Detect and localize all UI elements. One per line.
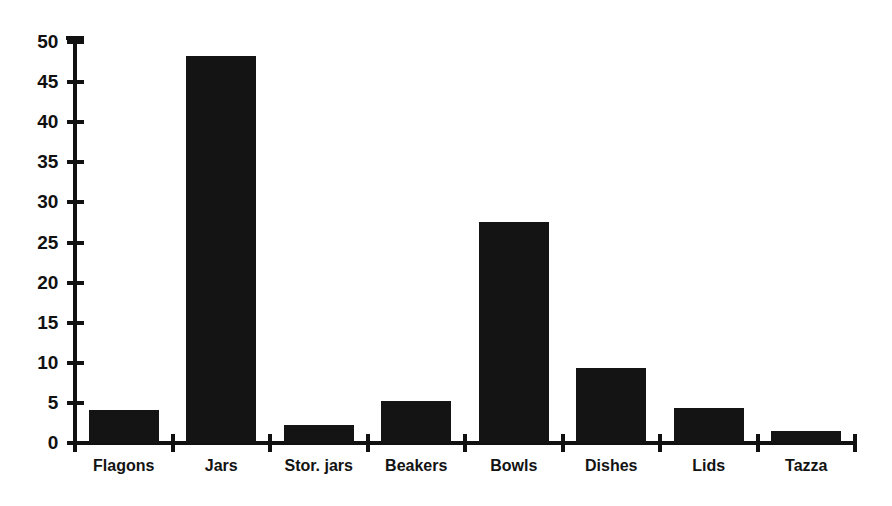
y-tick-label-15: 15 — [16, 313, 58, 332]
x-axis-label-bowls: Bowls — [465, 457, 563, 475]
bar-tazza — [771, 431, 841, 443]
bar-jars — [186, 56, 256, 443]
y-tick-label-40: 40 — [16, 112, 58, 131]
x-axis-label-dishes: Dishes — [563, 457, 661, 475]
y-tick-label-25: 25 — [16, 233, 58, 252]
y-tick-label-35: 35 — [16, 152, 58, 171]
y-tick-label-50: 50 — [16, 32, 58, 51]
bar-dishes — [576, 368, 646, 443]
plot-area — [75, 42, 855, 443]
y-tick-label-10: 10 — [16, 353, 58, 372]
bar-beakers — [381, 401, 451, 443]
bar-lids — [674, 408, 744, 443]
bar-flagons — [89, 410, 159, 443]
bar-bowls — [479, 222, 549, 443]
x-axis-label-beakers: Beakers — [368, 457, 466, 475]
y-tick-label-30: 30 — [16, 192, 58, 211]
y-tick-label-45: 45 — [16, 72, 58, 91]
x-axis-label-jars: Jars — [173, 457, 271, 475]
bar-stor-jars — [284, 425, 354, 443]
y-tick-label-20: 20 — [16, 273, 58, 292]
x-axis-label-flagons: Flagons — [75, 457, 173, 475]
bar-chart: 50454035302520151050 FlagonsJarsStor. ja… — [0, 0, 892, 506]
x-axis-label-lids: Lids — [660, 457, 758, 475]
y-tick-label-0: 0 — [16, 433, 58, 452]
y-tick-label-5: 5 — [16, 393, 58, 412]
x-axis-label-tazza: Tazza — [758, 457, 856, 475]
x-axis-label-stor-jars: Stor. jars — [270, 457, 368, 475]
